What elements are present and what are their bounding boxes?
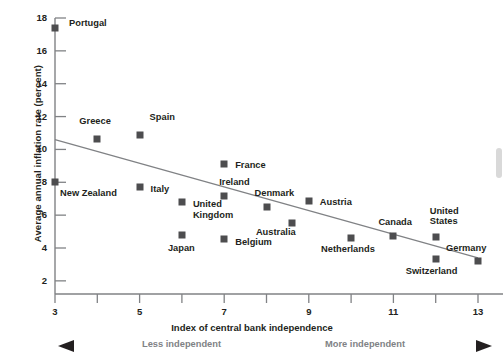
inflation-vs-cbi-scatter-chart: Average annual inflation rate (percent) … bbox=[0, 0, 504, 361]
page-edge-decoration bbox=[496, 148, 502, 178]
y-tick-label: 8 bbox=[11, 176, 47, 187]
direction-arrows bbox=[0, 336, 504, 358]
data-point-marker bbox=[94, 135, 101, 142]
data-point-marker bbox=[305, 198, 312, 205]
y-tick-label: 4 bbox=[11, 242, 47, 253]
data-point-marker bbox=[52, 179, 59, 186]
data-point-label: Spain bbox=[150, 112, 175, 123]
x-tick-label: 5 bbox=[120, 306, 160, 317]
data-point-label: Greece bbox=[79, 116, 111, 127]
y-tick-label: 2 bbox=[11, 275, 47, 286]
y-tick-label: 10 bbox=[11, 143, 47, 154]
x-tick-label: 9 bbox=[289, 306, 329, 317]
data-point-marker bbox=[348, 235, 355, 242]
y-tick-label: 18 bbox=[11, 12, 47, 23]
y-tick-label: 16 bbox=[11, 45, 47, 56]
data-point-marker bbox=[136, 131, 143, 138]
data-point-marker bbox=[475, 258, 482, 265]
data-point-label: Ireland bbox=[219, 177, 249, 188]
x-axis-title: Index of central bank independence bbox=[0, 322, 504, 333]
x-tick-label: 7 bbox=[204, 306, 244, 317]
data-point-label: Italy bbox=[151, 184, 170, 195]
data-point-label: UnitedStates bbox=[430, 206, 459, 227]
more-independent-label: More independent bbox=[325, 339, 405, 349]
data-point-marker bbox=[221, 193, 228, 200]
x-tick-label: 3 bbox=[35, 306, 75, 317]
y-tick-label: 6 bbox=[11, 209, 47, 220]
data-point-marker bbox=[136, 184, 143, 191]
data-point-label: Denmark bbox=[255, 188, 295, 199]
y-tick-label: 14 bbox=[11, 78, 47, 89]
data-point-label: Portugal bbox=[69, 18, 107, 29]
data-point-label: Australia bbox=[256, 227, 296, 238]
x-tick-label: 13 bbox=[458, 306, 498, 317]
independence-direction-hints: Less independent More independent bbox=[0, 336, 504, 358]
less-independent-label: Less independent bbox=[142, 339, 221, 349]
data-point-label: Japan bbox=[168, 243, 195, 254]
data-point-marker bbox=[221, 161, 228, 168]
data-point-label: Canada bbox=[378, 217, 412, 228]
x-tick-label: 11 bbox=[373, 306, 413, 317]
data-point-marker bbox=[390, 232, 397, 239]
data-point-label: Belgium bbox=[235, 237, 272, 248]
data-point-marker bbox=[432, 255, 439, 262]
data-point-label: New Zealand bbox=[60, 188, 117, 199]
data-point-marker bbox=[263, 203, 270, 210]
data-point-marker bbox=[221, 235, 228, 242]
data-point-label: Netherlands bbox=[321, 244, 375, 255]
chart-axes bbox=[0, 0, 504, 361]
data-point-label: France bbox=[235, 160, 266, 171]
data-point-label: Germany bbox=[446, 243, 486, 254]
data-point-marker bbox=[178, 231, 185, 238]
data-point-marker bbox=[288, 219, 295, 226]
data-point-marker bbox=[178, 199, 185, 206]
y-tick-label: 12 bbox=[11, 111, 47, 122]
data-point-label: UnitedKingdom bbox=[193, 199, 233, 220]
data-point-marker bbox=[52, 24, 59, 31]
data-point-label: Austria bbox=[320, 197, 352, 208]
data-point-marker bbox=[432, 233, 439, 240]
data-point-label: Switzerland bbox=[406, 266, 458, 277]
